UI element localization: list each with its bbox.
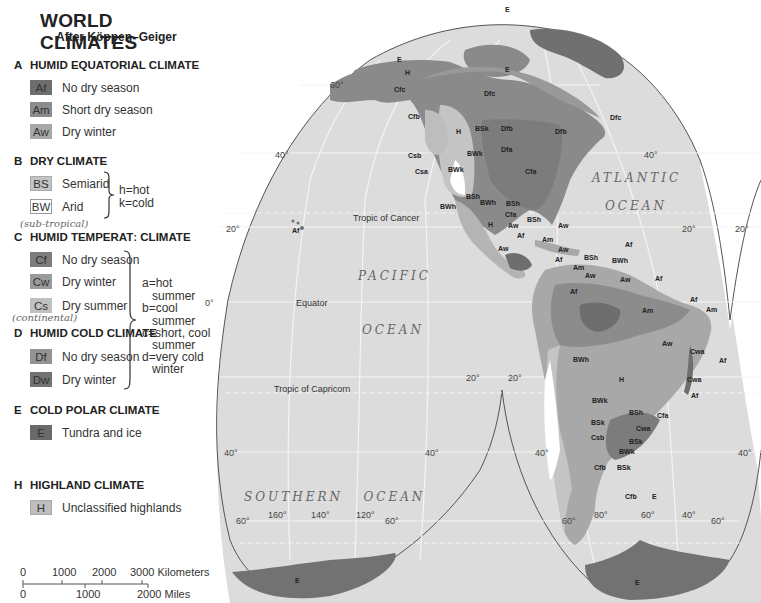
lon-label: 40° (682, 510, 696, 520)
legend-item-bw: BW Arid (30, 197, 83, 216)
region-label: BSh (506, 200, 520, 207)
region-label: BWk (448, 166, 464, 173)
region-label: BWk (467, 150, 483, 157)
swatch-cf: Cf (30, 252, 52, 267)
region-label: Aw (558, 222, 569, 229)
section-h-heading: HHIGHLAND CLIMATE (14, 479, 144, 491)
region-label: Af (570, 288, 578, 295)
region-label: BWh (440, 203, 456, 210)
lat-label: 40° (275, 150, 289, 160)
lon-label: 120° (356, 510, 375, 520)
legend-panel: WORLD CLIMATES After Köppen–Geiger AHUMI… (0, 0, 215, 603)
ocean-label-pacific-2: OCEAN (362, 323, 424, 337)
region-label: Af (555, 256, 563, 263)
lat-label: 40° (425, 448, 439, 458)
region-label: Cfa (525, 168, 536, 175)
region-label: Cfa (657, 412, 668, 419)
section-heading: HUMID COLD CLIMATE (30, 327, 157, 339)
region-label: Dfb (501, 125, 513, 132)
lat-label: 40° (644, 150, 658, 160)
legend-item-am: Am Short dry season (30, 100, 153, 119)
region-label: BSh (527, 216, 541, 223)
section-letter: B (14, 155, 30, 167)
legend-item-bs: BS Semiarid (30, 174, 109, 193)
lat-label: 40° (738, 448, 752, 458)
region-label: Csa (415, 168, 428, 175)
scale-km-1000: 1000 (52, 566, 76, 578)
region-label: E (652, 493, 657, 500)
section-letter: C (14, 231, 30, 243)
section-heading: DRY CLIMATE (30, 155, 107, 167)
region-label: Csb (408, 152, 421, 159)
section-heading: HUMID TEMPERATː CLIMATE (30, 231, 191, 243)
note-k: k=cold (119, 197, 154, 210)
section-b-heading: BDRY CLIMATE (14, 155, 107, 167)
swatch-h: H (30, 500, 52, 515)
legend-item-h: H Unclassified highlands (30, 498, 181, 517)
region-label: E (505, 6, 510, 13)
section-letter: D (14, 327, 30, 339)
swatch-cs: Cs (30, 298, 52, 313)
tropic-of-capricorn-label: Tropic of Capricorn (274, 384, 350, 394)
swatch-e: E (30, 425, 52, 440)
region-label: Aw (508, 222, 519, 229)
section-c-heading: CHUMID TEMPERATː CLIMATE (14, 231, 191, 243)
lon-label: 140° (311, 510, 330, 520)
region-label: Cwa (690, 348, 705, 355)
lat-label: 20° (508, 373, 522, 383)
ocean-label-southern: SOUTHERN OCEAN (244, 490, 425, 504)
region-label: Dfb (555, 128, 567, 135)
legend-item-label: No dry season (62, 81, 139, 95)
legend-item-label: Dry summer (62, 299, 127, 313)
region-label: Aw (498, 245, 509, 252)
bracket-b (103, 171, 115, 222)
swatch-df: Df (30, 349, 52, 364)
legend-item-cw: Cw Dry winter (30, 272, 116, 291)
region-label: H (619, 376, 624, 383)
ocean-label-pacific-1: PACIFIC (357, 269, 431, 283)
scale-km-0: 0 (20, 566, 26, 578)
handwritten-annotation-subtropical: (sub-tropical) (20, 218, 88, 229)
swatch-cw: Cw (30, 274, 52, 289)
region-label: BSh (466, 193, 480, 200)
lat-label: 60° (330, 80, 344, 90)
scale-km-3000: 3000 Kilometers (130, 566, 210, 578)
region-label: Aw (585, 272, 596, 279)
region-label: Cfc (394, 86, 405, 93)
lat-label: 60° (711, 516, 725, 526)
region-label: BSk (629, 438, 643, 445)
region-label: Cfb (594, 464, 606, 471)
lat-label: 40° (224, 448, 238, 458)
legend-item-label: Arid (62, 200, 83, 214)
region-label: Cfa (505, 211, 516, 218)
region-label: Cfb (625, 493, 637, 500)
region-label: Cwa (687, 376, 702, 383)
region-label: H (456, 128, 461, 135)
lat-label: 60° (385, 516, 399, 526)
lat-label: 20° (466, 373, 480, 383)
region-label: E (397, 56, 402, 63)
lat-label: 40° (535, 448, 549, 458)
section-e-heading: ECOLD POLAR CLIMATE (14, 404, 159, 416)
legend-item-label: Short dry season (62, 103, 153, 117)
region-label: H (405, 69, 410, 76)
region-label: Am (573, 264, 584, 271)
region-label-hawaii: Af (292, 227, 300, 234)
section-letter: E (14, 404, 30, 416)
region-label: BWh (573, 356, 589, 363)
region-label: BSh (584, 254, 598, 261)
note-d-cont: winter (152, 363, 184, 376)
section-heading: COLD POLAR CLIMATE (30, 404, 159, 416)
region-label: Am (642, 307, 653, 314)
scale-mi-0: 0 (20, 588, 26, 600)
region-label: Cwa (636, 425, 651, 432)
region-label: Am (706, 306, 717, 313)
swatch-am: Am (30, 102, 52, 117)
region-label: Am (542, 236, 553, 243)
region-label: BWk (592, 397, 608, 404)
region-label: Af (517, 232, 525, 239)
lat-label: 60° (562, 516, 576, 526)
scale-bar: 0 1000 2000 3000 Kilometers 0 1000 2000 … (20, 566, 220, 602)
lon-label: 160° (268, 510, 287, 520)
ocean-label-atlantic-2: OCEAN (605, 199, 667, 213)
